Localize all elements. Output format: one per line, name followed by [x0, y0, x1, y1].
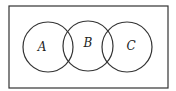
set-label-b: B — [83, 36, 93, 50]
venn-diagram: ABC — [0, 0, 176, 91]
set-label-c: C — [126, 39, 135, 53]
set-circle-a — [23, 22, 73, 72]
set-label-a: A — [37, 40, 47, 54]
